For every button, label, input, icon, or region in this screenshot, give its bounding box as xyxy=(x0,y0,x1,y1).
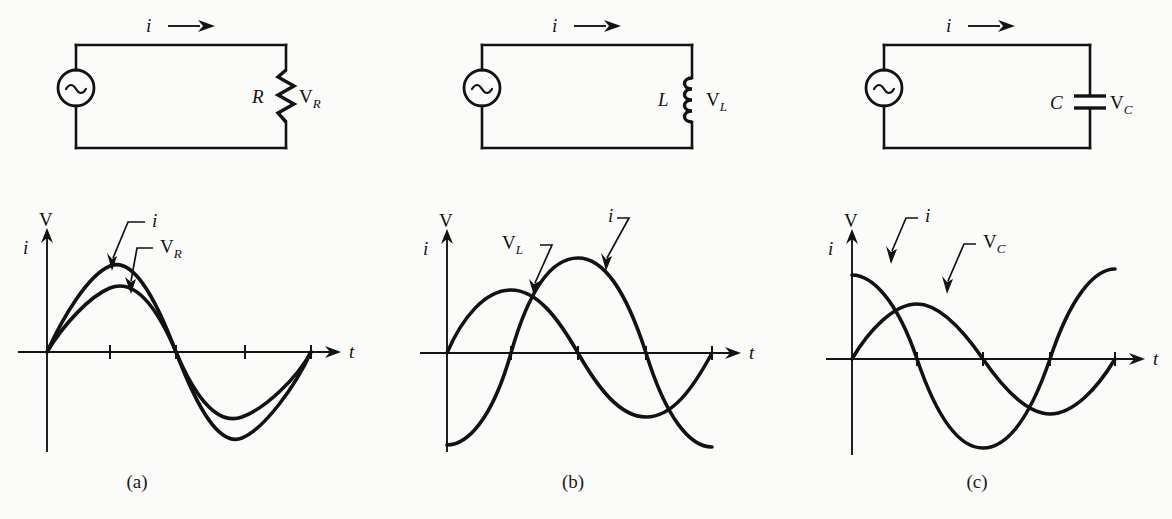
capacitive-circuit: i C VC xyxy=(866,15,1133,148)
annotation-label-i-c: i xyxy=(925,205,930,226)
annotation-vl-b: VL xyxy=(502,232,552,296)
ac-source-tilde-icon-c xyxy=(874,85,894,93)
y-axis-label-i-a: i xyxy=(23,237,28,258)
inductor-coil-icon xyxy=(685,78,693,122)
current-arrow-b xyxy=(574,20,621,32)
y-axis-label-i-b: i xyxy=(423,238,428,259)
inductor-waveform-graph: VL i V i t xyxy=(420,205,755,452)
annotation-label-vr-a: VR xyxy=(160,236,182,261)
ac-source-tilde-icon xyxy=(66,85,86,93)
resistive-circuit: i R VR xyxy=(58,15,321,148)
current-arrow-a xyxy=(168,20,215,32)
current-arrow-head-icon-b xyxy=(604,20,621,32)
y-axis-label-v-c: V xyxy=(844,210,858,231)
resistor-zigzag-icon xyxy=(278,70,294,122)
figure-canvas: i R VR xyxy=(0,0,1172,519)
inductor-symbol xyxy=(685,78,693,122)
annotation-label-vl-b: VL xyxy=(502,232,523,257)
annotation-i-c: i xyxy=(886,205,930,264)
leader-line-vc-c xyxy=(948,244,976,281)
ac-source-symbol-c xyxy=(866,70,902,106)
panel-b: i L VL xyxy=(420,15,755,493)
capacitor-label: C xyxy=(1050,92,1063,113)
resistor-symbol xyxy=(278,70,294,122)
ac-source-tilde-icon-b xyxy=(472,85,492,93)
x-axis-label-t-c: t xyxy=(1153,348,1159,369)
ac-source-symbol-b xyxy=(464,70,500,106)
capacitor-waveform-graph: i VC V i t xyxy=(826,205,1159,455)
current-arrow-head-icon xyxy=(198,20,215,32)
caption-a: (a) xyxy=(126,471,147,493)
y-axis-label-v-a: V xyxy=(39,209,53,230)
annotation-vr-a: VR xyxy=(125,236,182,294)
capacitor-symbol xyxy=(1074,96,1106,108)
annotation-label-i-b: i xyxy=(608,205,613,226)
panel-a: i R VR xyxy=(18,15,355,493)
y-axis-label-i-c: i xyxy=(828,238,833,259)
caption-b: (b) xyxy=(562,471,584,493)
annotation-i-b: i xyxy=(601,205,629,271)
leader-line-i-a xyxy=(113,222,145,258)
ac-source-symbol xyxy=(58,70,94,106)
annotation-label-i-a: i xyxy=(152,210,157,231)
capacitor-voltage-label: VC xyxy=(1110,92,1133,117)
x-axis-label-t-a: t xyxy=(349,341,355,362)
current-arrow-c xyxy=(968,20,1015,32)
x-axis-label-t-b: t xyxy=(749,342,755,363)
current-arrow-head-icon-c xyxy=(998,20,1015,32)
figure-root: i R VR xyxy=(0,0,1172,519)
leader-line-i-c xyxy=(892,218,918,251)
caption-c: (c) xyxy=(966,471,987,493)
leader-arrow-i-c xyxy=(886,246,897,264)
y-axis-label-v-b: V xyxy=(439,210,453,231)
annotation-label-vc-c: VC xyxy=(983,231,1006,256)
current-label-c: i xyxy=(946,15,951,36)
annotation-vc-c: VC xyxy=(942,231,1006,294)
annotation-i-a: i xyxy=(107,210,157,271)
panel-c: i C VC xyxy=(826,15,1159,493)
inductive-circuit: i L VL xyxy=(464,15,727,148)
resistor-voltage-label: VR xyxy=(299,86,321,111)
resistor-label: R xyxy=(251,86,264,107)
leader-arrow-vc-c xyxy=(942,276,953,294)
resistor-waveform-graph: i VR V i t xyxy=(18,209,355,452)
inductor-label: L xyxy=(657,89,669,110)
current-label-b: i xyxy=(552,15,557,36)
inductor-voltage-label: VL xyxy=(706,89,727,114)
current-label-a: i xyxy=(146,15,151,36)
